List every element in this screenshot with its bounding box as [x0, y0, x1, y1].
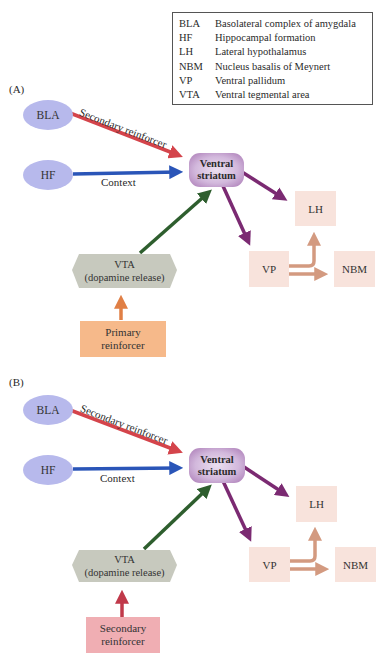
node-bla-b: BLA — [23, 395, 73, 425]
node-hf-a: HF — [23, 160, 73, 190]
node-lh-b: LH — [296, 486, 337, 522]
node-nbm-b: NBM — [335, 547, 376, 582]
arrow-vp-to-lh-a — [289, 237, 314, 266]
node-vta-a: VTA (dopamine release) — [72, 254, 177, 288]
arrow-hf-to-vs-b — [73, 468, 178, 469]
node-hf-b: HF — [23, 455, 73, 485]
arrow-vta-to-vs-b — [144, 488, 208, 549]
node-secondary-reinforcer-b: Secondary reinforcer — [86, 617, 160, 653]
edge-label-context-b: Context — [100, 472, 135, 484]
node-primary-reinforcer-a: Primary reinforcer — [80, 321, 166, 357]
panel-label-b: (B) — [9, 376, 24, 388]
node-ventral-striatum-b: Ventral striatum — [189, 448, 245, 483]
arrow-vp-to-lh-b — [290, 532, 315, 561]
node-nbm-a: NBM — [334, 251, 375, 287]
panel-a-arrows — [70, 113, 323, 320]
arrow-hf-to-vs-a — [73, 172, 178, 174]
node-vta-b: VTA (dopamine release) — [72, 550, 177, 582]
arrow-vs-to-vp-a — [223, 186, 248, 241]
node-lh-a: LH — [295, 191, 336, 226]
node-ventral-striatum-a: Ventral striatum — [189, 153, 244, 187]
arrow-vs-to-lh-b — [244, 467, 285, 494]
edge-label-context-a: Context — [101, 176, 136, 188]
panel-b-arrows — [70, 410, 324, 617]
arrow-vs-to-lh-a — [242, 172, 283, 198]
arrows-layer — [0, 0, 391, 660]
arrow-vs-to-vp-b — [223, 481, 249, 537]
node-bla-a: BLA — [23, 100, 73, 130]
node-vp-b: VP — [249, 547, 290, 582]
node-vp-a: VP — [249, 251, 289, 287]
arrow-vta-to-vs-a — [140, 193, 208, 253]
panel-label-a: (A) — [9, 83, 24, 95]
